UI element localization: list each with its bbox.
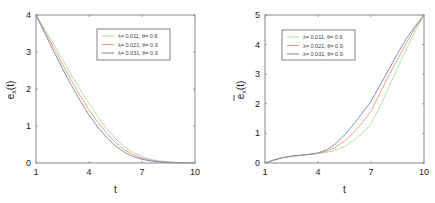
legend-label-2: λ= 0.021, θ= 0.9	[303, 43, 343, 49]
x-tick-label: 7	[368, 167, 373, 177]
x-axis-label: t	[114, 184, 117, 195]
y-tick-label: 0	[26, 158, 31, 168]
y-tick-label: 4	[26, 10, 31, 20]
x-tick-label: 4	[315, 167, 320, 177]
x-tick-label: 4	[86, 167, 91, 177]
figure: 1471001234tex(t)λ= 0.011, θ= 0.9λ= 0.021…	[0, 0, 435, 203]
y-axis-label-text: ex(t)	[5, 81, 17, 100]
y-axis-label: ex(t)	[234, 81, 247, 101]
legend: λ= 0.011, θ= 0.9λ= 0.021, θ= 0.9λ= 0.031…	[97, 29, 170, 60]
left-chart-panel: 1471001234tex(t)λ= 0.011, θ= 0.9λ= 0.021…	[5, 10, 200, 195]
x-tick-label: 10	[190, 167, 200, 177]
y-tick-label: 2	[26, 84, 31, 94]
x-tick-label: 10	[419, 167, 429, 177]
legend: λ= 0.011, θ= 0.9λ= 0.021, θ= 0.9λ= 0.031…	[282, 30, 355, 60]
y-axis-label-tail: (t)	[235, 81, 246, 90]
legend-label-3: λ= 0.031, θ= 0.9	[303, 51, 343, 57]
y-tick-label: 1	[255, 128, 260, 138]
y-tick-label: 4	[255, 40, 260, 50]
y-tick-label: 2	[255, 99, 260, 109]
right-chart-panel: 14710012345tex(t)λ= 0.011, θ= 0.9λ= 0.02…	[234, 10, 429, 195]
y-axis-label-tail: (t)	[5, 81, 16, 90]
legend-label-2: λ= 0.021, θ= 0.9	[118, 42, 158, 48]
x-axis-label: t	[343, 184, 346, 195]
y-tick-label: 3	[255, 69, 260, 79]
y-axis-label: ex(t)	[5, 81, 17, 100]
y-axis-label-text: ex(t)	[235, 81, 247, 100]
x-tick-label: 1	[262, 167, 267, 177]
legend-label-1: λ= 0.011, θ= 0.9	[303, 34, 342, 40]
y-tick-label: 0	[255, 158, 260, 168]
y-tick-label: 5	[255, 10, 260, 20]
legend-label-1: λ= 0.011, θ= 0.9	[118, 33, 157, 39]
x-tick-label: 7	[139, 167, 144, 177]
y-tick-label: 3	[26, 47, 31, 57]
y-tick-label: 1	[26, 121, 31, 131]
legend-label-3: λ= 0.031, θ= 0.9	[118, 50, 158, 56]
x-tick-label: 1	[33, 167, 38, 177]
